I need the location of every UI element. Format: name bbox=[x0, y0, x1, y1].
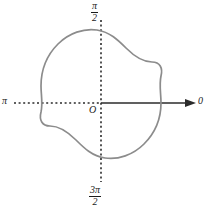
axis-label-pi-over-2: π 2 bbox=[91, 1, 98, 23]
axis-label-zero: 0 bbox=[198, 96, 203, 106]
fraction-pi-over-2: π 2 bbox=[91, 1, 98, 23]
axis-label-pi: π bbox=[2, 96, 7, 106]
fraction-denominator: 2 bbox=[91, 13, 98, 24]
fraction-numerator: 3π bbox=[89, 185, 101, 197]
axis-label-three-pi-over-2: 3π 2 bbox=[89, 185, 101, 207]
fraction-three-pi-over-2: 3π 2 bbox=[89, 185, 101, 207]
polar-plot-canvas bbox=[0, 0, 213, 208]
origin-label: O bbox=[89, 105, 96, 115]
polar-plot-figure: π 2 π 3π 2 0 O bbox=[0, 0, 213, 208]
fraction-numerator: π bbox=[91, 1, 98, 13]
polar-axis-arrowhead bbox=[185, 99, 196, 107]
fraction-denominator: 2 bbox=[89, 197, 101, 208]
